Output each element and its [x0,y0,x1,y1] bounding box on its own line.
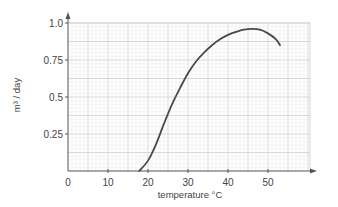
x-axis-ticks: 01020304050 [65,169,274,188]
y-axis-ticks: 0.250.50.751.0 [44,18,68,140]
y-tick-label: 0.25 [44,129,64,140]
x-tick-label: 20 [142,177,154,188]
y-tick-label: 0.5 [49,92,63,103]
y-axis-arrow-icon [66,12,71,19]
x-tick-label: 0 [65,177,71,188]
x-axis-label: temperature °C [158,189,223,200]
x-tick-label: 10 [102,177,114,188]
line-chart: 01020304050 0.250.50.751.0 temperature °… [0,0,338,207]
y-axis-label: m³ / day [11,78,22,113]
x-tick-label: 40 [222,177,234,188]
x-axis-arrow-icon [310,169,317,174]
x-tick-label: 50 [262,177,274,188]
y-tick-label: 0.75 [44,55,64,66]
data-curve [139,29,280,171]
y-tick-label: 1.0 [49,18,63,29]
chart-grid [68,23,310,171]
axes [66,12,318,174]
x-tick-label: 30 [182,177,194,188]
